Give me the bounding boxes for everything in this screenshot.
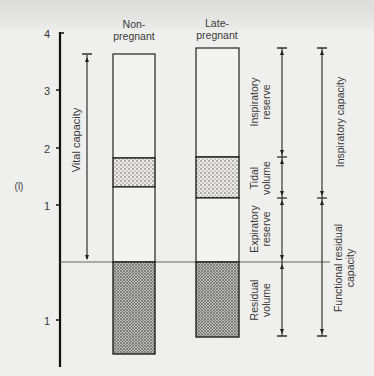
label-functional-residual-capacity-2: capacity: [344, 248, 356, 287]
bar-nonpregnant: [113, 54, 155, 354]
y-axis: 4 3 2 1 1 (l): [15, 28, 64, 367]
segment-inspiratory-reserve: [196, 48, 239, 157]
label-inspiratory-reserve-2: reserve: [260, 84, 272, 119]
segment-tidal-volume: [113, 158, 155, 187]
column-header-nonpregnant-line1: Non-: [123, 18, 146, 30]
label-functional-residual-capacity-1: Functional residual: [332, 224, 344, 312]
unit-label: (l): [15, 181, 24, 192]
vital-capacity-label: Vital capacity: [70, 107, 82, 172]
label-expiratory-reserve-2: reserve: [260, 211, 272, 246]
tick-label-2: 2: [44, 143, 50, 155]
segment-expiratory-reserve: [113, 187, 155, 262]
volume-dimension-line: [277, 48, 287, 336]
column-header-latepregnant-line2: pregnant: [196, 29, 238, 41]
column-header-nonpregnant-line2: pregnant: [113, 30, 155, 42]
label-inspiratory-capacity: Inspiratory capacity: [334, 76, 346, 167]
vital-capacity-arrow: Vital capacity: [70, 54, 92, 260]
capacity-dimension-line: [317, 48, 327, 336]
tick-label-lower-1: 1: [44, 315, 50, 327]
tick-label-4: 4: [44, 28, 50, 40]
segment-expiratory-reserve: [196, 198, 239, 262]
label-expiratory-reserve-1: Expiratory: [248, 205, 260, 253]
label-residual-volume-2: volume: [260, 283, 272, 317]
label-tidal-volume-1: Tidal: [248, 167, 260, 189]
tick-label-1: 1: [44, 200, 50, 212]
label-inspiratory-reserve-1: Inspiratory: [248, 77, 260, 127]
tick-label-3: 3: [44, 85, 50, 97]
segment-residual-volume: [196, 262, 239, 337]
segment-inspiratory-reserve: [113, 54, 155, 158]
bar-latepregnant: [196, 48, 239, 337]
segment-tidal-volume: [196, 157, 239, 198]
segment-residual-volume: [113, 262, 155, 354]
column-header-latepregnant-line1: Late-: [205, 17, 229, 29]
label-residual-volume-1: Residual: [248, 280, 260, 321]
volume-labels: Inspiratory reserve Tidal volume Expirat…: [248, 77, 272, 321]
lung-volume-diagram: 4 3 2 1 1 (l) Vital capacity Non- pregna…: [0, 0, 374, 376]
label-tidal-volume-2: volume: [260, 161, 272, 195]
